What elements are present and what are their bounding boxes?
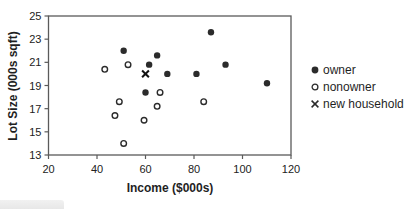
- svg-text:17: 17: [29, 103, 41, 115]
- bottom-left-ui-artifact: [0, 200, 64, 209]
- svg-text:120: 120: [282, 163, 300, 175]
- svg-text:100: 100: [233, 163, 251, 175]
- legend: owner nonowner new household: [309, 64, 404, 110]
- svg-text:25: 25: [29, 10, 41, 22]
- owner-point: [154, 52, 160, 58]
- y-axis-title: Lot Size (000s sqft): [6, 31, 20, 140]
- filled-circle-icon: [309, 64, 321, 76]
- open-circle-icon: [309, 81, 321, 93]
- owner-point: [120, 48, 126, 54]
- nonowner-point: [125, 62, 131, 68]
- x-axis-title: Income ($000s): [127, 181, 214, 195]
- svg-text:80: 80: [188, 163, 200, 175]
- svg-text:15: 15: [29, 126, 41, 138]
- owner-point: [146, 61, 152, 67]
- svg-text:20: 20: [42, 163, 54, 175]
- legend-item-owner: owner: [309, 64, 404, 76]
- nonowner-point: [154, 104, 160, 110]
- nonowner-point: [112, 113, 118, 119]
- owner-point: [193, 71, 199, 77]
- nonowner-point: [121, 141, 127, 147]
- legend-label-new-household: new household: [323, 98, 404, 110]
- owner-point: [264, 80, 270, 86]
- svg-text:40: 40: [91, 163, 103, 175]
- nonowner-point: [102, 66, 108, 72]
- legend-label-nonowner: nonowner: [323, 81, 376, 93]
- owner-point: [208, 29, 214, 35]
- new-household-point: [142, 71, 149, 78]
- legend-label-owner: owner: [323, 64, 356, 76]
- svg-text:13: 13: [29, 149, 41, 161]
- svg-text:21: 21: [29, 56, 41, 68]
- owner-point: [164, 71, 170, 77]
- nonowner-point: [141, 117, 147, 123]
- nonowner-point: [201, 99, 207, 105]
- owner-point: [142, 89, 148, 95]
- scatter-plot-figure: 2040608010012013151719212325 Income ($00…: [0, 0, 404, 209]
- legend-item-new-household: new household: [309, 98, 404, 110]
- svg-text:19: 19: [29, 80, 41, 92]
- nonowner-point: [157, 90, 163, 96]
- axes: 2040608010012013151719212325: [29, 10, 300, 175]
- nonowner-point: [117, 99, 123, 105]
- svg-text:23: 23: [29, 33, 41, 45]
- owner-point: [222, 61, 228, 67]
- svg-text:60: 60: [139, 163, 151, 175]
- legend-item-nonowner: nonowner: [309, 81, 404, 93]
- data-points: [102, 29, 270, 146]
- x-cross-icon: [309, 98, 321, 110]
